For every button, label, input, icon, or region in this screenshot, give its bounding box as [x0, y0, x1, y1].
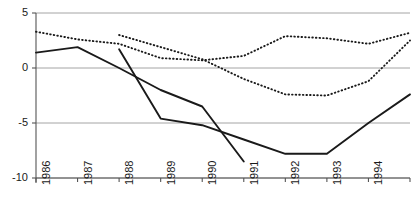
line-chart: 50-5-10 19861987198819891990199119921993…	[0, 0, 414, 220]
gridlines-group	[36, 13, 410, 178]
y-tick-label: 0	[2, 62, 28, 73]
x-tick-label: 1991	[249, 161, 260, 185]
chart-plot-area	[0, 0, 414, 220]
y-tick-label: -5	[2, 117, 28, 128]
x-tick-label: 1992	[290, 161, 301, 185]
y-tick-label: 5	[2, 7, 28, 18]
x-tick-label: 1990	[207, 161, 218, 185]
y-tick-label: -10	[2, 172, 28, 183]
data-series-group	[36, 32, 410, 162]
y-tick-marks-group	[32, 13, 36, 178]
series-line-1	[36, 32, 410, 61]
x-tick-label: 1994	[373, 161, 384, 185]
x-tick-label: 1987	[83, 161, 94, 185]
x-tick-label: 1986	[41, 161, 52, 185]
x-tick-label: 1988	[124, 161, 135, 185]
x-tick-label: 1993	[332, 161, 343, 185]
x-tick-label: 1989	[166, 161, 177, 185]
series-line-4	[119, 49, 410, 154]
axes-group	[36, 13, 410, 183]
